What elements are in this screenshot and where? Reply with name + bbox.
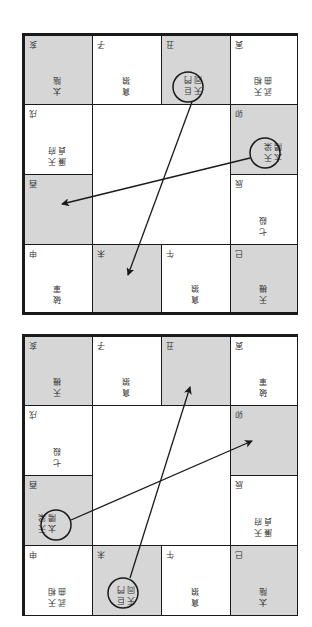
branch-label: 寅 [235,40,243,48]
star-group: 七殺 [25,445,92,467]
star-name: 天同 [195,73,203,95]
star-name: 破軍 [55,282,63,304]
star-group: 破軍 [231,375,297,397]
palace-cell: 酉 太陽天梁 [24,475,93,546]
branch-label: 亥 [29,40,37,48]
palace-cell: 巳 太陰 [230,545,298,616]
star-group: 武曲天相 [25,585,92,607]
palace-cell: 申 破軍 [24,244,93,313]
branch-label: 酉 [29,480,37,488]
star-name: 貪狼 [123,375,131,397]
star-name: 破軍 [260,375,268,397]
branch-label: 子 [97,40,105,48]
star-group: 七殺 [231,214,297,236]
palace-cell: 寅 破軍 [230,336,298,406]
branch-label: 卯 [235,410,243,418]
palace-cell: 巳 天機 [230,244,298,313]
star-name: 貪狼 [123,74,131,96]
palace-cell: 辰 七殺 [230,174,298,245]
palace-cell: 午 貪狼 [161,545,231,616]
palace-cell: 未 [92,244,162,313]
star-name: 武曲 [60,585,68,607]
branch-label: 巳 [235,249,243,257]
star-group: 太陽天梁 [251,140,297,162]
star-name: 天同 [128,583,136,605]
star-group: 貪狼 [162,585,230,607]
star-name: 巨門 [118,583,126,605]
star-group: 天同巨門 [93,583,161,605]
star-group: 貪狼 [93,74,161,96]
branch-label: 申 [29,550,37,558]
branch-label: 子 [97,341,105,349]
star-name: 天相 [255,74,263,96]
branch-label: 巳 [235,550,243,558]
star-name: 太陰 [260,585,268,607]
branch-label: 辰 [235,480,243,488]
star-group: 太陰 [231,585,297,607]
star-group: 廉貞天府 [231,515,297,537]
branch-label: 未 [97,550,105,558]
star-name: 天相 [50,585,58,607]
branch-label: 辰 [235,179,243,187]
star-name: 天府 [255,515,263,537]
palace-cell: 卯 太陽天梁 [230,104,298,175]
star-name: 太陰 [55,74,63,96]
chart-bottom: 亥 天機 子 貪狼 丑 寅 破軍 戌 七殺 卯 酉 太陽天梁 辰 廉貞天府 申 … [22,334,298,616]
branch-label: 午 [166,550,174,558]
star-name: 天府 [50,144,58,166]
palace-cell: 子 貪狼 [92,35,162,105]
star-name: 貪狼 [192,282,200,304]
branch-label: 丑 [166,40,174,48]
star-group: 貪狼 [93,375,161,397]
star-name: 天機 [55,375,63,397]
branch-label: 酉 [29,179,37,187]
star-group: 天同巨門 [158,73,230,95]
star-name: 廉貞 [265,515,273,537]
palace-cell: 寅 武曲天相 [230,35,298,105]
star-group: 太陰 [25,74,92,96]
star-group: 天機 [231,282,297,304]
branch-label: 卯 [235,109,243,117]
palace-cell: 卯 [230,405,298,476]
star-group: 廉貞天府 [25,144,92,166]
branch-label: 戌 [29,109,37,117]
palace-cell: 亥 天機 [24,336,93,406]
star-name: 天機 [260,282,268,304]
branch-label: 未 [97,249,105,257]
star-name: 武曲 [265,74,273,96]
star-name: 七殺 [260,214,268,236]
star-name: 太陽 [50,511,58,533]
palace-cell: 辰 廉貞天府 [230,475,298,546]
branch-label: 丑 [166,341,174,349]
star-name: 七殺 [55,445,63,467]
branch-label: 寅 [235,341,243,349]
star-group: 貪狼 [162,282,230,304]
palace-cell: 丑 天同巨門 [161,35,231,105]
palace-cell: 子 貪狼 [92,336,162,406]
branch-label: 戌 [29,410,37,418]
chart-top: 亥 太陰 子 貪狼 丑 天同巨門 寅 武曲天相 戌 廉貞天府 卯 太陽天梁 酉 … [22,33,298,315]
star-name: 天梁 [40,511,48,533]
star-group: 武曲天相 [231,74,297,96]
branch-label: 亥 [29,341,37,349]
star-group: 破軍 [25,282,92,304]
palace-cell: 戌 七殺 [24,405,93,476]
star-name: 貪狼 [192,585,200,607]
star-name: 巨門 [185,73,193,95]
palace-cell: 亥 太陰 [24,35,93,105]
palace-cell: 未 天同巨門 [92,545,162,616]
star-name: 廉貞 [60,144,68,166]
palace-cell: 午 貪狼 [161,244,231,313]
palace-cell: 酉 [24,174,93,245]
branch-label: 申 [29,249,37,257]
branch-label: 午 [166,249,174,257]
palace-cell: 丑 [161,336,231,406]
palace-cell: 申 武曲天相 [24,545,93,616]
palace-cell: 戌 廉貞天府 [24,104,93,175]
star-name: 太陽 [275,140,283,162]
star-group: 天機 [25,375,92,397]
star-group: 太陽天梁 [5,511,92,533]
star-name: 天梁 [265,140,273,162]
